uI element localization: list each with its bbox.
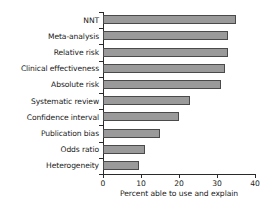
category-label: Clinical effectiveness [0, 64, 99, 73]
category-label: Odds ratio [0, 145, 99, 154]
y-axis-tick [99, 61, 103, 62]
category-label: Relative risk [0, 48, 99, 57]
category-label: Absolute risk [0, 80, 99, 89]
y-axis-tick [99, 12, 103, 13]
x-axis-tick-label: 30 [212, 179, 222, 188]
x-axis-tick-label: 20 [174, 179, 184, 188]
bar-chart: NNTMeta-analysisRelative riskClinical ef… [0, 0, 265, 203]
y-axis-tick [99, 44, 103, 45]
x-axis-tick [217, 174, 218, 178]
x-axis-tick [103, 174, 104, 178]
x-axis-title: Percent able to use and explain [103, 189, 255, 198]
x-axis-tick-label: 40 [250, 179, 260, 188]
x-axis-tick [255, 174, 256, 178]
category-label: Meta-analysis [0, 32, 99, 41]
x-axis-tick [179, 174, 180, 178]
y-axis-tick [99, 142, 103, 143]
category-label: Systematic review [0, 97, 99, 106]
category-label: Heterogeneity [0, 161, 99, 170]
category-label: Confidence interval [0, 113, 99, 122]
category-label: Publication bias [0, 129, 99, 138]
x-axis-tick [141, 174, 142, 178]
y-axis-tick [99, 125, 103, 126]
x-axis-tick-label: 0 [101, 179, 106, 188]
y-axis-tick [99, 77, 103, 78]
y-axis-tick [99, 158, 103, 159]
category-labels: NNTMeta-analysisRelative riskClinical ef… [0, 12, 265, 174]
x-axis-tick-label: 10 [136, 179, 146, 188]
y-axis-tick [99, 28, 103, 29]
category-label: NNT [0, 16, 99, 25]
y-axis-tick [99, 109, 103, 110]
y-axis-tick [99, 93, 103, 94]
